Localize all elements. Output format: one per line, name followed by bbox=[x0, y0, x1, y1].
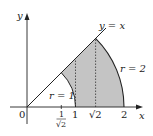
y-axis-label: y bbox=[16, 10, 23, 21]
x-axis-label: x bbox=[139, 110, 145, 121]
x-axis-arrow-icon bbox=[136, 105, 143, 110]
line-label: y = x bbox=[98, 20, 125, 31]
tick-label-2: 2 bbox=[121, 109, 127, 120]
origin-label: 0 bbox=[19, 109, 25, 120]
tick-label-inv-sqrt2-den: √2 bbox=[56, 120, 66, 129]
inner-arc-label: r = 1 bbox=[49, 90, 75, 101]
polar-region-diagram: y x 0 1 √2 1 √2 2 y = x r = 1 r = 2 bbox=[0, 0, 153, 136]
tick-label-1: 1 bbox=[72, 109, 78, 120]
outer-arc-label: r = 2 bbox=[120, 63, 146, 74]
tick-label-sqrt2: √2 bbox=[89, 109, 102, 120]
y-axis-arrow-icon bbox=[25, 13, 30, 20]
tick-label-inv-sqrt2-num: 1 bbox=[59, 110, 64, 119]
